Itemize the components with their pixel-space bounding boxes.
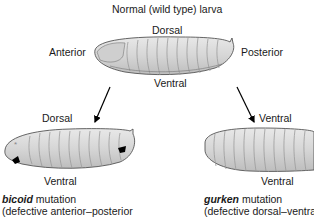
bicoid-dorsal-label: Dorsal: [42, 112, 72, 124]
gurken-top-ventral-label: Ventral: [259, 112, 292, 124]
gurken-larva: [205, 128, 314, 171]
bicoid-caption-rest: mutation: [33, 193, 76, 205]
diagram-title: Normal (wild type) larva: [112, 3, 222, 15]
bicoid-caption-line2: (defective anterior–posterior: [2, 205, 133, 217]
gurken-caption-rest: mutation: [239, 193, 282, 205]
normal-ventral-label: Ventral: [154, 77, 187, 89]
arrow-to-gurken: [237, 87, 254, 122]
normal-anterior-label: Anterior: [49, 46, 86, 58]
arrow-to-bicoid: [95, 87, 110, 122]
bicoid-larva: *: [5, 129, 135, 169]
bicoid-caption: bicoid mutation: [2, 193, 76, 205]
gurken-caption-line2: (defective dorsal–ventral: [204, 205, 314, 217]
normal-larva: [95, 37, 234, 75]
gurken-bottom-ventral-label: Ventral: [261, 175, 294, 187]
bicoid-ventral-label: Ventral: [44, 175, 77, 187]
svg-text:*: *: [14, 140, 17, 149]
normal-posterior-label: Posterior: [241, 46, 283, 58]
normal-dorsal-label: Dorsal: [152, 24, 182, 36]
gurken-caption: gurken mutation: [204, 193, 282, 205]
gurken-gene-name: gurken: [204, 193, 239, 205]
bicoid-gene-name: bicoid: [2, 193, 33, 205]
